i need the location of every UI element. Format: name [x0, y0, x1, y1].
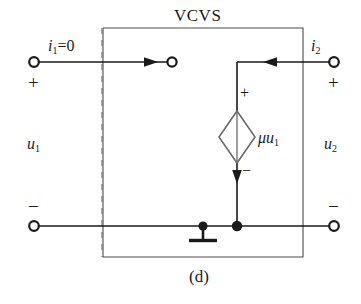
input-plus-terminal-circle	[29, 57, 39, 67]
output-minus-terminal-circle	[329, 221, 339, 231]
output-current-label: i2	[311, 38, 320, 56]
dependent-source-gain-symbol: μu	[258, 129, 274, 146]
output-current-arrowhead	[263, 57, 277, 67]
source-plus-sign: +	[240, 85, 249, 101]
ground-icon	[189, 226, 217, 241]
output-voltage-subscript: 2	[332, 143, 337, 154]
external-terminal-circles	[29, 57, 339, 231]
source-polarity-arrowhead	[232, 170, 242, 184]
vcvs-circuit-figure: VCVS (d) i1=0 i2 u1 u2 μu1 + − + − + −	[0, 0, 361, 304]
input-minus-sign: −	[28, 197, 39, 216]
input-voltage-subscript: 1	[35, 143, 40, 154]
input-current-label: i1=0	[48, 38, 74, 56]
output-top-wire	[237, 57, 334, 67]
output-voltage-label: u2	[324, 136, 337, 154]
output-plus-sign: +	[328, 73, 339, 92]
dependent-source-value-label: μu1	[258, 130, 279, 148]
source-minus-sign: −	[242, 163, 251, 179]
output-minus-sign: −	[328, 197, 339, 216]
input-voltage-symbol: u	[27, 135, 35, 152]
input-minus-terminal-circle	[29, 221, 39, 231]
dependent-source-gain-subscript: 1	[274, 137, 279, 148]
source-junction-dot	[232, 221, 242, 231]
open-circuit-terminal-circle	[167, 57, 176, 66]
output-current-subscript: 2	[315, 45, 320, 56]
output-voltage-symbol: u	[324, 135, 332, 152]
input-current-equals-zero: =0	[57, 37, 74, 54]
figure-caption: (d)	[189, 268, 209, 285]
output-plus-terminal-circle	[329, 57, 339, 67]
input-current-arrowhead	[144, 57, 158, 67]
input-voltage-label: u1	[27, 136, 40, 154]
figure-title: VCVS	[174, 7, 221, 24]
input-plus-sign: +	[28, 73, 39, 92]
